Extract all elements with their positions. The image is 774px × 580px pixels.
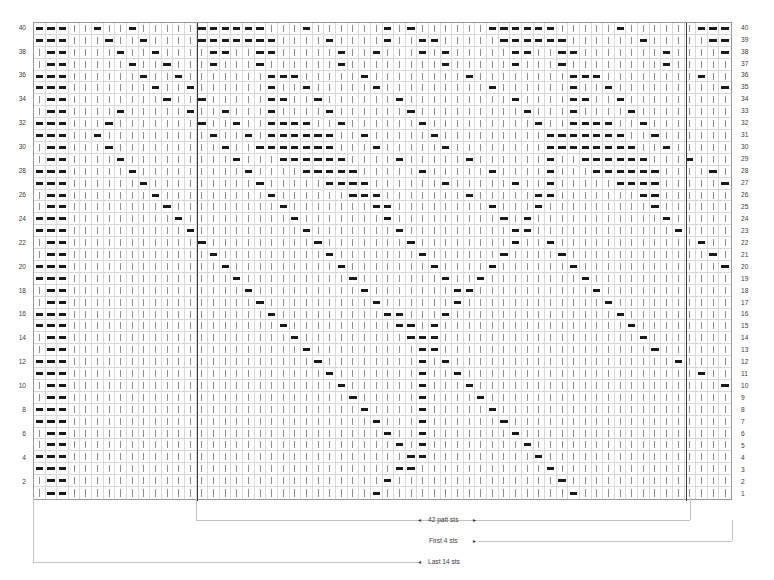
knit-stitch-cell	[383, 344, 395, 356]
purl-stitch-cell	[545, 190, 557, 202]
purl-stitch-cell	[708, 249, 720, 261]
knit-stitch-cell	[127, 106, 139, 118]
knit-stitch-cell	[615, 237, 627, 249]
knit-stitch-cell	[487, 59, 499, 71]
knit-stitch-cell	[150, 475, 162, 487]
knit-stitch-cell	[301, 404, 313, 416]
knit-stitch-cell	[534, 261, 546, 273]
row-number-left-24: 24	[19, 216, 26, 223]
knit-stitch-cell	[197, 225, 209, 237]
knit-stitch-cell	[475, 297, 487, 309]
knit-stitch-cell	[208, 166, 220, 178]
knit-stitch-cell	[475, 332, 487, 344]
knit-stitch-cell	[255, 190, 267, 202]
knit-stitch-cell	[173, 142, 185, 154]
knit-stitch-cell	[475, 404, 487, 416]
knit-stitch-cell	[417, 154, 429, 166]
knit-stitch-cell	[638, 356, 650, 368]
knit-stitch-cell	[696, 451, 708, 463]
purl-stitch-cell	[429, 344, 441, 356]
knit-stitch-cell	[301, 297, 313, 309]
knit-stitch-cell	[371, 475, 383, 487]
knit-stitch-cell	[615, 404, 627, 416]
knit-stitch-cell	[255, 368, 267, 380]
knit-stitch-cell	[499, 368, 511, 380]
knit-stitch-cell	[255, 225, 267, 237]
purl-stitch-cell	[522, 225, 534, 237]
knit-stitch-cell	[69, 392, 81, 404]
purl-stitch-cell	[336, 178, 348, 190]
knit-stitch-cell	[452, 130, 464, 142]
knit-stitch-cell	[313, 439, 325, 451]
knit-stitch-cell	[197, 82, 209, 94]
knit-stitch-cell	[661, 166, 673, 178]
row-number-right-30: 30	[741, 144, 748, 151]
knit-stitch-cell	[231, 451, 243, 463]
knit-stitch-cell	[220, 285, 232, 297]
knit-stitch-cell	[661, 154, 673, 166]
knit-stitch-cell	[650, 309, 662, 321]
purl-stitch-cell	[301, 130, 313, 142]
knit-stitch-cell	[464, 106, 476, 118]
purl-stitch-cell	[696, 237, 708, 249]
knit-stitch-cell	[290, 451, 302, 463]
knit-stitch-cell	[568, 320, 580, 332]
knit-stitch-cell	[34, 285, 46, 297]
knit-stitch-cell	[231, 178, 243, 190]
knit-stitch-cell	[348, 261, 360, 273]
knit-stitch-cell	[719, 428, 731, 440]
knit-stitch-cell	[464, 344, 476, 356]
knit-stitch-cell	[510, 332, 522, 344]
purl-stitch-cell	[661, 59, 673, 71]
purl-stitch-cell	[719, 23, 731, 35]
purl-stitch-cell	[568, 47, 580, 59]
knit-stitch-cell	[80, 225, 92, 237]
knit-stitch-cell	[185, 404, 197, 416]
knit-stitch-cell	[336, 23, 348, 35]
knit-stitch-cell	[673, 23, 685, 35]
knit-stitch-cell	[150, 451, 162, 463]
knit-stitch-cell	[150, 130, 162, 142]
knit-stitch-cell	[487, 213, 499, 225]
knit-stitch-cell	[115, 225, 127, 237]
knit-stitch-cell	[696, 201, 708, 213]
knit-stitch-cell	[545, 332, 557, 344]
purl-stitch-cell	[197, 118, 209, 130]
knit-stitch-cell	[115, 428, 127, 440]
knit-stitch-cell	[104, 225, 116, 237]
knit-stitch-cell	[475, 344, 487, 356]
knit-stitch-cell	[626, 130, 638, 142]
purl-stitch-cell	[464, 154, 476, 166]
knit-stitch-cell	[348, 463, 360, 475]
purl-stitch-cell	[92, 23, 104, 35]
knit-stitch-cell	[266, 428, 278, 440]
knit-stitch-cell	[580, 404, 592, 416]
knit-stitch-cell	[615, 451, 627, 463]
knit-stitch-cell	[626, 35, 638, 47]
purl-stitch-cell	[57, 35, 69, 47]
knit-stitch-cell	[173, 344, 185, 356]
knit-stitch-cell	[266, 332, 278, 344]
knit-stitch-cell	[173, 332, 185, 344]
purl-stitch-cell	[417, 356, 429, 368]
knit-stitch-cell	[696, 344, 708, 356]
purl-stitch-cell	[580, 71, 592, 83]
knit-stitch-cell	[394, 23, 406, 35]
knit-stitch-cell	[615, 297, 627, 309]
knit-stitch-cell	[278, 309, 290, 321]
knit-stitch-cell	[429, 178, 441, 190]
knit-stitch-cell	[696, 416, 708, 428]
knit-stitch-cell	[173, 463, 185, 475]
knit-stitch-cell	[359, 166, 371, 178]
knit-stitch-cell	[522, 380, 534, 392]
knit-stitch-cell	[324, 344, 336, 356]
purl-stitch-cell	[34, 35, 46, 47]
knit-stitch-cell	[173, 416, 185, 428]
knit-stitch-cell	[650, 463, 662, 475]
knit-stitch-cell	[139, 451, 151, 463]
knit-stitch-cell	[150, 332, 162, 344]
knit-stitch-cell	[115, 368, 127, 380]
knit-stitch-cell	[162, 190, 174, 202]
knit-stitch-cell	[475, 428, 487, 440]
knit-stitch-cell	[162, 35, 174, 47]
